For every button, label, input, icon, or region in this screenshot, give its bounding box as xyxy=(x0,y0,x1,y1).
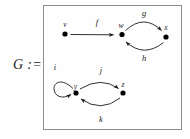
vertex-w-dot xyxy=(119,32,124,37)
edge-label-k: k xyxy=(99,114,103,124)
edge-label-i: i xyxy=(54,62,57,72)
edge-g-path xyxy=(126,22,162,31)
vertex-label-z: z xyxy=(121,80,125,89)
edge-label-g: g xyxy=(142,8,146,18)
vertex-label-y: y xyxy=(73,82,78,91)
vertex-y-dot xyxy=(73,90,78,95)
vertex-v-dot xyxy=(62,31,67,36)
edge-g: g xyxy=(126,8,162,31)
vertex-label-v: v xyxy=(63,20,67,29)
edge-k-path xyxy=(81,98,120,106)
edge-label-j: j xyxy=(99,65,103,75)
graph-diagram: f g h i j k v xyxy=(0,0,190,139)
vertex-w: w xyxy=(118,21,124,38)
edge-h: h xyxy=(126,42,164,63)
vertex-z: z xyxy=(120,80,125,96)
vertex-label-x: x xyxy=(163,23,168,32)
vertex-label-w: w xyxy=(118,21,123,30)
edge-k: k xyxy=(81,98,120,124)
vertex-x: x xyxy=(163,23,168,40)
edge-f: f xyxy=(71,17,114,35)
edge-i: i xyxy=(54,62,73,97)
edge-i-path xyxy=(54,82,73,97)
vertex-y: y xyxy=(73,82,79,96)
graph-figure: G := f g h i j xyxy=(0,0,190,139)
edge-label-h: h xyxy=(142,53,146,63)
vertex-x-dot xyxy=(163,34,168,39)
edge-j-path xyxy=(80,82,119,89)
edge-h-path xyxy=(126,42,164,50)
vertex-v: v xyxy=(62,20,67,37)
edge-j: j xyxy=(80,65,119,89)
edge-label-f: f xyxy=(96,17,100,27)
vertex-z-dot xyxy=(120,90,125,95)
